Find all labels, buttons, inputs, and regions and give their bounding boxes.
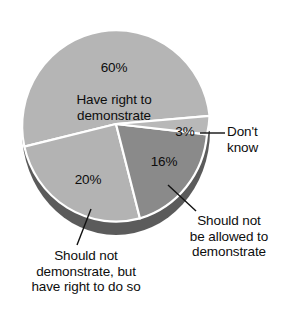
pie-label-have-right-value: 60% xyxy=(101,60,128,75)
pie-callout-should-not-demonstrate: Should not demonstrate, but have right t… xyxy=(6,248,166,295)
pie-callout-should-not-be-allowed: Should not be allowed to demonstrate xyxy=(174,213,284,260)
pie-value-should-not-be-allowed: 16% xyxy=(144,154,184,170)
pie-label-have-right-to-demonstrate: 60% Have right to demonstrate xyxy=(44,44,184,124)
pie-label-have-right-text: Have right to demonstrate xyxy=(76,92,151,123)
pie-callout-dont-know: Don't know xyxy=(227,124,283,155)
pie-value-should-not-demonstrate: 20% xyxy=(66,172,110,188)
pie-chart-figure: 60% Have right to demonstrate 20% 16% 3%… xyxy=(0,0,284,311)
pie-value-dont-know: 3% xyxy=(168,124,202,140)
